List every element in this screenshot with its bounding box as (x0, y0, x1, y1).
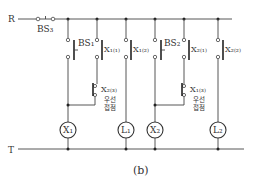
bs2-label: BS₂ (164, 38, 181, 48)
x1-1-terminal-bottom (95, 55, 98, 58)
coil-x2-label: X₂ (150, 125, 160, 135)
bs1-terminal-top (66, 38, 69, 41)
circuit-diagram: R T BS₃ BS₁ X₁₍₁₎ X₂₍₃₎ 우선 (0, 0, 256, 190)
bs1-terminal-bottom (66, 55, 69, 58)
x2-2-terminal-bottom (216, 55, 219, 58)
x2-3-label: X₂₍₃₎ (101, 85, 117, 94)
x1-2-terminal-top (124, 38, 127, 41)
x2-2-terminal-top (216, 38, 219, 41)
figure-caption: (b) (133, 164, 149, 177)
rail-t-label: T (8, 145, 14, 155)
branch-x1: BS₁ X₁₍₁₎ X₂₍₃₎ 우선 접점 X₁ (60, 18, 120, 151)
x2-1-terminal-bottom (182, 55, 185, 58)
bs2-terminal-bottom (153, 55, 156, 58)
branch-l2: X₂₍₂₎ L₂ (210, 18, 241, 151)
bs2-terminal-top (153, 38, 156, 41)
x1-2-terminal-bottom (124, 55, 127, 58)
bs3-terminal-right (51, 17, 55, 21)
x2-2-label: X₂₍₂₎ (225, 45, 241, 54)
junction-node (67, 104, 70, 107)
x1-3-note-2: 접점 (193, 104, 205, 112)
x2-3-terminal-top (93, 84, 96, 87)
main-switch-bs3: BS₃ (18, 16, 55, 34)
lamp-l2-label: L₂ (213, 125, 223, 135)
bs1-label: BS₁ (78, 38, 94, 48)
bs3-label: BS₃ (37, 24, 54, 34)
lamp-l1-label: L₁ (121, 125, 131, 135)
x1-3-terminal-top (182, 84, 185, 87)
coil-x1-label: X₁ (63, 125, 73, 135)
x1-2-label: X₁₍₂₎ (133, 45, 149, 54)
junction-node (154, 104, 157, 107)
x1-3-label: X₁₍₃₎ (190, 85, 206, 94)
junction-node (154, 148, 157, 151)
bs3-terminal-left (36, 17, 40, 21)
x1-1-label: X₁₍₁₎ (104, 45, 120, 54)
x2-3-note-2: 접점 (104, 104, 116, 112)
x2-3-terminal-bottom (93, 93, 96, 96)
branch-x2: BS₂ X₂₍₁₎ X₁₍₃₎ 우선 접점 X₂ (147, 18, 207, 151)
junction-node (67, 148, 70, 151)
x1-3-terminal-bottom (182, 93, 185, 96)
x2-1-label: X₂₍₁₎ (191, 45, 207, 54)
junction-node (217, 148, 220, 151)
x1-3-note-1: 우선 (193, 95, 205, 104)
rail-r-label: R (8, 14, 15, 24)
junction-node (125, 148, 128, 151)
x2-1-terminal-top (182, 38, 185, 41)
x2-3-note-1: 우선 (104, 95, 116, 104)
branch-l1: X₁₍₂₎ L₁ (118, 18, 149, 151)
x1-1-terminal-top (95, 38, 98, 41)
